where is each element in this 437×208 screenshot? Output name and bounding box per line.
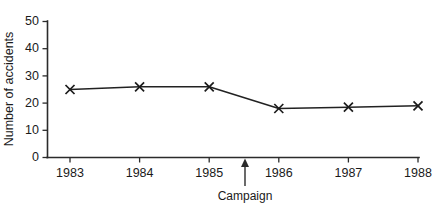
y-axis-title: Number of accidents xyxy=(2,32,16,147)
x-tick-label-1987: 1987 xyxy=(334,166,362,180)
x-tick-label-1986: 1986 xyxy=(265,166,293,180)
y-tick-label-40: 40 xyxy=(25,41,39,55)
y-tick-label-0: 0 xyxy=(32,150,39,164)
y-tick-label-50: 50 xyxy=(25,14,39,28)
x-tick-label-1984: 1984 xyxy=(126,166,154,180)
chart-canvas: 50 40 30 20 10 0 Number of accidents 198… xyxy=(0,0,437,208)
y-tick-label-10: 10 xyxy=(25,123,39,137)
y-tick-label-20: 20 xyxy=(25,96,39,110)
y-tick-label-30: 30 xyxy=(25,69,39,83)
campaign-arrow-head xyxy=(241,159,249,168)
accidents-series-line xyxy=(70,87,418,109)
x-tick-label-1985: 1985 xyxy=(195,166,223,180)
x-tick-label-1983: 1983 xyxy=(56,166,84,180)
campaign-annotation-label: Campaign xyxy=(218,189,273,203)
x-tick-label-1988: 1988 xyxy=(404,166,432,180)
accidents-line-chart-figure: 50 40 30 20 10 0 Number of accidents 198… xyxy=(0,0,437,208)
